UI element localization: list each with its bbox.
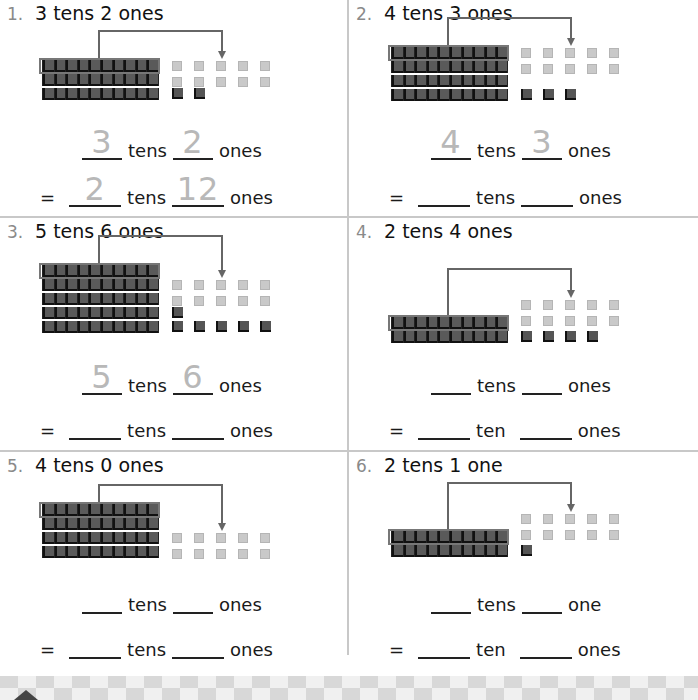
ones-label: ones	[568, 142, 611, 160]
traded-unit-cube	[609, 514, 619, 524]
traced-regroup-tens: 2	[69, 173, 121, 205]
arrow-line	[98, 484, 100, 502]
tens-rod	[42, 74, 159, 86]
ones-answer-blank[interactable]	[173, 582, 213, 614]
traded-unit-cube	[587, 64, 597, 74]
traded-unit-cube	[260, 280, 270, 290]
traded-unit-cube	[172, 533, 182, 543]
traded-unit-cube	[260, 549, 270, 559]
regroup-line: = tens ones	[40, 408, 279, 440]
tens-ones-line: 5 tens 6 ones	[82, 363, 268, 395]
traded-unit-cube	[238, 61, 248, 71]
regroup-ones-blank[interactable]	[520, 408, 572, 440]
traded-unit-cube	[609, 530, 619, 540]
regroup-tens-blank[interactable]	[69, 408, 121, 440]
arrow-line	[447, 268, 570, 270]
unit-cube	[172, 307, 183, 318]
traded-unit-cube	[521, 300, 531, 310]
tens-answer-blank[interactable]	[431, 363, 471, 395]
tens-label: tens	[128, 596, 167, 614]
traded-unit-cube	[194, 77, 204, 87]
tens-rod	[391, 545, 508, 557]
traced-ones-answer: 2	[173, 126, 213, 158]
equals-sign: =	[40, 189, 55, 207]
unit-cube	[260, 321, 271, 332]
arrow-line	[570, 17, 572, 39]
traced-tens-answer: 5	[82, 361, 122, 393]
traded-unit-cube	[194, 61, 204, 71]
regroup-ones-blank[interactable]	[172, 627, 224, 659]
equals-sign: =	[40, 422, 55, 440]
regroup-line: = ten ones	[389, 408, 627, 440]
problem-number: 6.	[356, 456, 372, 476]
problem-5: 5.4 tens 0 ones tens ones = tens ones	[0, 452, 347, 668]
traded-unit-cube	[238, 77, 248, 87]
ones-answer-blank[interactable]	[522, 582, 562, 614]
regroup-ones-blank[interactable]	[521, 175, 573, 207]
tens-answer-blank[interactable]	[431, 582, 471, 614]
unit-cube	[543, 331, 554, 342]
traded-unit-cube	[238, 280, 248, 290]
problem-number: 1.	[7, 4, 23, 24]
traded-unit-cube	[565, 514, 575, 524]
page-corner-icon	[14, 690, 38, 700]
tens-rod	[391, 331, 508, 343]
traded-unit-cube	[543, 530, 553, 540]
regroup-tens-blank[interactable]	[69, 627, 121, 659]
ones-answer-blank[interactable]: 3	[522, 128, 562, 160]
ones-answer-blank[interactable]: 2	[173, 128, 213, 160]
traded-unit-cube	[216, 77, 226, 87]
regroup-tens-blank[interactable]	[418, 175, 470, 207]
traced-ones-answer: 6	[173, 361, 213, 393]
tens-answer-blank[interactable]: 5	[82, 363, 122, 395]
arrow-line	[570, 482, 572, 505]
regroup-line: = ten ones	[389, 627, 627, 659]
regroup-box	[39, 263, 160, 279]
ones-answer-blank[interactable]: 6	[173, 363, 213, 395]
tens-label: tens	[127, 641, 166, 659]
tens-rod	[42, 518, 159, 530]
problem-number: 5.	[7, 456, 23, 476]
unit-cube	[521, 545, 532, 556]
traded-unit-cube	[194, 280, 204, 290]
tens-answer-blank[interactable]: 3	[82, 128, 122, 160]
traded-unit-cube	[172, 77, 182, 87]
ones-answer-blank[interactable]	[522, 363, 562, 395]
tens-rod	[42, 293, 159, 305]
traded-unit-cube	[521, 530, 531, 540]
traded-unit-cube	[609, 64, 619, 74]
traded-unit-cube	[216, 549, 226, 559]
tens-rod	[42, 279, 159, 291]
ones-label: one	[568, 596, 602, 614]
arrow-head-icon	[567, 38, 575, 46]
traded-unit-cube	[543, 300, 553, 310]
regroup-tens-blank[interactable]	[418, 408, 470, 440]
arrow-line	[221, 30, 223, 52]
traded-unit-cube	[609, 300, 619, 310]
unit-cube	[238, 321, 249, 332]
tens-label: ten	[476, 641, 506, 659]
regroup-box	[388, 529, 509, 545]
traded-unit-cube	[587, 316, 597, 326]
tens-label: tens	[477, 377, 516, 395]
regroup-ones-blank[interactable]: 12	[172, 175, 224, 207]
arrow-head-icon	[218, 523, 226, 531]
arrow-head-icon	[567, 290, 575, 298]
ones-label: ones	[230, 641, 273, 659]
regroup-tens-blank[interactable]	[418, 627, 470, 659]
traded-unit-cube	[172, 549, 182, 559]
traded-unit-cube	[587, 48, 597, 58]
decorative-checker-strip	[0, 676, 698, 700]
tens-ones-line: tens ones	[431, 363, 617, 395]
regroup-tens-blank[interactable]: 2	[69, 175, 121, 207]
tens-ones-line: 3 tens 2 ones	[82, 128, 268, 160]
regroup-ones-blank[interactable]	[520, 627, 572, 659]
equals-sign: =	[40, 641, 55, 659]
tens-answer-blank[interactable]: 4	[431, 128, 471, 160]
arrow-line	[98, 30, 100, 58]
tens-label: tens	[127, 189, 166, 207]
regroup-ones-blank[interactable]	[172, 408, 224, 440]
ones-label: ones	[219, 142, 262, 160]
problem-3: 3.5 tens 6 ones 5 tens 6 ones = tens one…	[0, 218, 347, 434]
tens-answer-blank[interactable]	[82, 582, 122, 614]
